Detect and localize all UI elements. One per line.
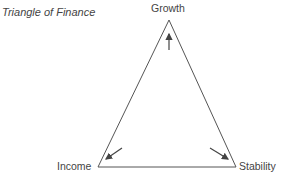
triangle-diagram [0,0,302,179]
arrow-down-left-icon [106,148,122,159]
arrow-down-right-icon [210,148,228,159]
triangle-outline [98,20,236,167]
